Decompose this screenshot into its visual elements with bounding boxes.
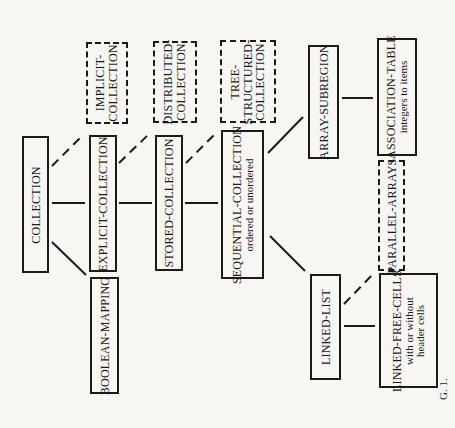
node-title: ASSOCIATION-TABLE <box>385 35 398 159</box>
node-stored-collection: STORED-COLLECTION <box>155 135 183 271</box>
node-subtitle: with or without <box>403 269 415 391</box>
node-title: BOOLEAN-MAPPING <box>98 276 111 394</box>
node-tree-structured-collection: TREE- STRUCTURED- COLLECTION <box>220 40 276 123</box>
node-subtitle-line2: header cells <box>415 269 427 391</box>
node-linked-free-cells: LINKED-FREE-CELLS with or without header… <box>379 273 438 388</box>
node-linked-list: LINKED-LIST <box>310 274 341 380</box>
node-association-table: ASSOCIATION-TABLE integers to items <box>377 38 417 156</box>
node-title-line3: COLLECTION <box>254 39 267 124</box>
node-title: EXPLICIT-COLLECTION <box>97 136 110 271</box>
edge-linkedlist-parallel <box>344 272 375 304</box>
node-array-subregion: ARRAY-SUBREGION <box>308 45 339 159</box>
node-title: PARALLEL-ARRAYS <box>385 158 398 273</box>
node-explicit-collection: EXPLICIT-COLLECTION <box>89 135 117 272</box>
node-title-line2: COLLECTION <box>175 39 188 124</box>
node-title: ARRAY-SUBREGION <box>317 44 330 159</box>
figure-label: G. 1. <box>437 378 449 400</box>
node-title: SEQUENTIAL-COLLECTION <box>230 125 243 283</box>
edge-stored-tree <box>186 134 215 163</box>
node-sequential-collection: SEQUENTIAL-COLLECTION ordered or unorder… <box>221 130 264 279</box>
node-parallel-arrays: PARALLEL-ARRAYS <box>378 160 405 271</box>
node-boolean-mapping: BOOLEAN-MAPPING <box>90 277 119 394</box>
edge-collection-implicit <box>52 135 83 166</box>
node-title: TREE- <box>229 39 242 124</box>
node-collection: COLLECTION <box>22 136 49 273</box>
node-title: COLLECTION <box>29 166 42 243</box>
node-title: DISTRIBUTED- <box>162 39 175 124</box>
edge-explicit-distributed <box>119 134 149 163</box>
node-title: LINKED-FREE-CELLS <box>391 269 404 391</box>
edge-collection-boolean <box>52 242 86 275</box>
node-distributed-collection: DISTRIBUTED- COLLECTION <box>153 41 197 123</box>
node-title-line2: COLLECTION <box>107 44 120 121</box>
node-implicit-collection: IMPLICIT- COLLECTION <box>86 42 128 124</box>
node-subtitle: ordered or unordered <box>243 125 255 283</box>
node-subtitle: integers to items <box>398 35 410 159</box>
node-title: LINKED-LIST <box>319 289 332 365</box>
node-title: IMPLICIT- <box>94 44 107 121</box>
edge-sequential-linkedlist <box>270 236 305 271</box>
node-title: STORED-COLLECTION <box>163 138 176 267</box>
